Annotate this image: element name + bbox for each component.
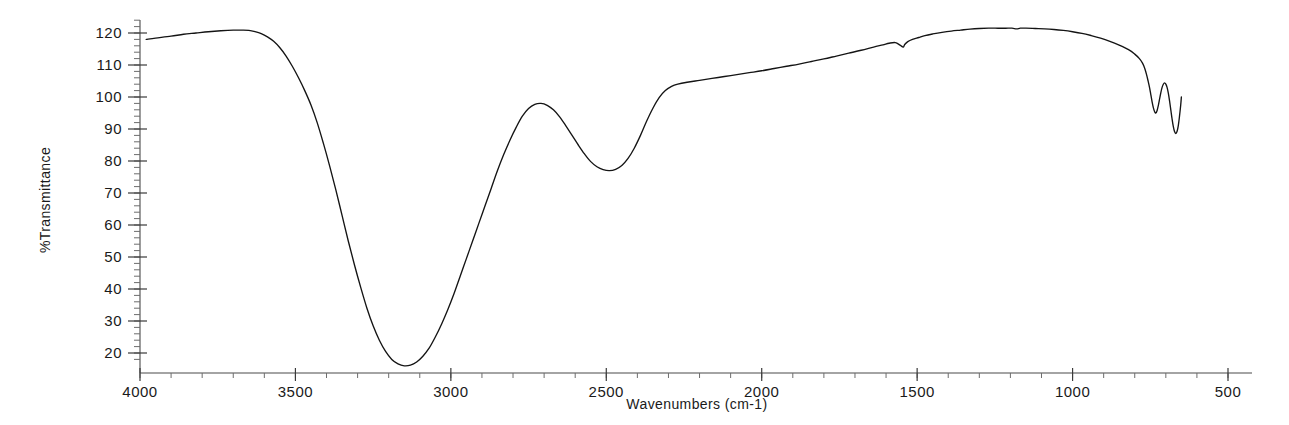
y-tick-label: 50 — [104, 248, 122, 265]
y-tick-label: 80 — [104, 152, 122, 169]
y-tick-label: 30 — [104, 312, 122, 329]
ir-spectrum-figure: 2030405060708090100110120 40003500300025… — [0, 0, 1289, 425]
spectrum-plot-area: 2030405060708090100110120 40003500300025… — [0, 0, 1289, 425]
x-tick-label: 3500 — [278, 383, 313, 400]
y-tick-label: 60 — [104, 216, 122, 233]
x-tick-label: 3000 — [433, 383, 468, 400]
x-major-ticks — [140, 368, 1228, 381]
y-tick-labels: 2030405060708090100110120 — [95, 24, 122, 361]
y-tick-label: 100 — [95, 88, 122, 105]
x-axis-title: Wavenumbers (cm-1) — [626, 396, 767, 412]
y-tick-label: 70 — [104, 184, 122, 201]
y-minor-ticks — [134, 20, 140, 359]
y-axis: 2030405060708090100110120 — [95, 20, 147, 373]
y-axis-title: %Transmittance — [37, 147, 53, 253]
x-tick-label: 1500 — [899, 383, 934, 400]
y-tick-label: 90 — [104, 120, 122, 137]
y-tick-label: 120 — [95, 24, 122, 41]
y-tick-label: 20 — [104, 344, 122, 361]
x-tick-label: 4000 — [122, 383, 157, 400]
y-tick-label: 110 — [97, 56, 122, 73]
y-major-ticks — [128, 33, 147, 353]
x-tick-label: 500 — [1215, 383, 1242, 400]
x-minor-ticks — [140, 373, 1228, 378]
x-tick-label: 2500 — [589, 383, 624, 400]
x-tick-label: 1000 — [1055, 383, 1090, 400]
y-tick-label: 40 — [104, 280, 122, 297]
spectrum-curve — [146, 28, 1181, 366]
